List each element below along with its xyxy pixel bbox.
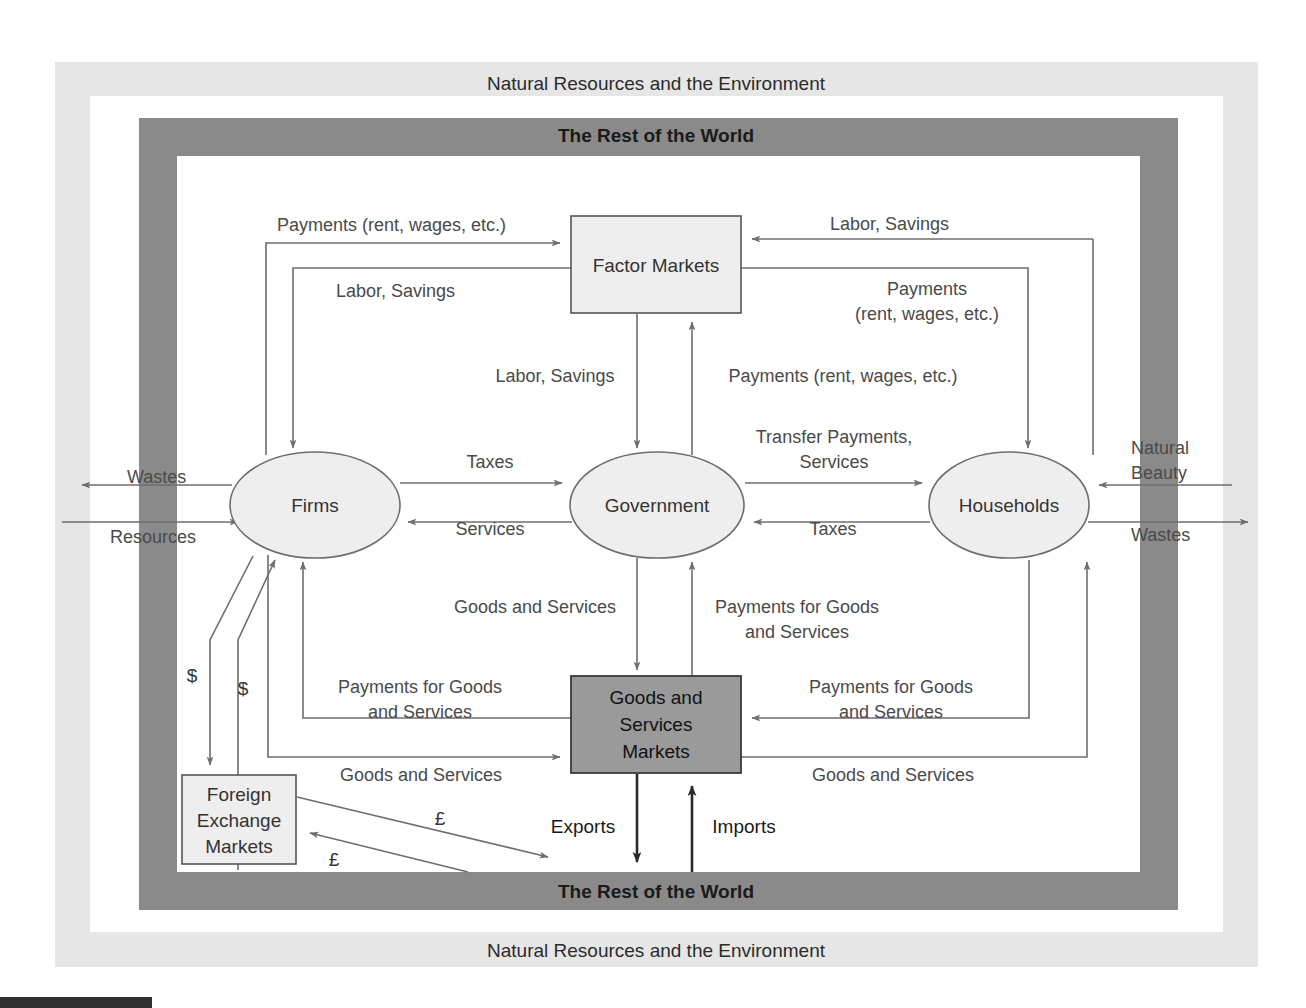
- flow-label-services-gov-firms: Services: [455, 519, 524, 539]
- flow-label-payments-goods-center-line2: and Services: [745, 622, 849, 642]
- flow-line-payments-firms-to-factor: [266, 243, 560, 455]
- flow-label-payments-top-left: Payments (rent, wages, etc.): [277, 215, 506, 235]
- flow-label-goods-services-right: Goods and Services: [812, 765, 974, 785]
- node-label-factor-markets: Factor Markets: [593, 255, 720, 276]
- flow-line-goods-gsmarkets-to-households: [741, 562, 1087, 757]
- node-goods-services-markets[interactable]: Goods and Services Markets: [571, 676, 741, 773]
- flow-label-natural-beauty-line1: Natural: [1131, 438, 1189, 458]
- node-factor-markets[interactable]: Factor Markets: [571, 216, 741, 313]
- band-label-inner-bottom: The Rest of the World: [558, 881, 754, 902]
- flow-label-transfer-line1: Transfer Payments,: [756, 427, 912, 447]
- node-label-gsmarkets-line3: Markets: [622, 741, 690, 762]
- node-label-fem-line2: Exchange: [197, 810, 282, 831]
- flow-label-payments-goods-center-line1: Payments for Goods: [715, 597, 879, 617]
- node-firms[interactable]: Firms: [230, 452, 400, 558]
- flow-label-labor-savings-left: Labor, Savings: [336, 281, 455, 301]
- flow-label-taxes-firms-gov: Taxes: [466, 452, 513, 472]
- flow-label-transfer-line2: Services: [799, 452, 868, 472]
- flow-label-resources-left: Resources: [110, 527, 196, 547]
- figure-canvas: Natural Resources and the Environment Th…: [0, 0, 1306, 1008]
- flow-label-goods-services-center: Goods and Services: [454, 597, 616, 617]
- node-label-government: Government: [605, 495, 710, 516]
- flow-label-dollar-in: $: [238, 678, 249, 699]
- flow-label-payments-goods-right-line2: and Services: [839, 702, 943, 722]
- flow-label-dollar-out: $: [187, 665, 198, 686]
- flow-label-payments-right-line2: (rent, wages, etc.): [855, 304, 999, 324]
- node-label-gsmarkets-line1: Goods and: [610, 687, 703, 708]
- band-label-inner-top: The Rest of the World: [558, 125, 754, 146]
- flow-label-imports: Imports: [712, 816, 775, 837]
- flow-line-dollar-firms-to-fem: [210, 556, 253, 765]
- flow-label-labor-savings-right: Labor, Savings: [830, 214, 949, 234]
- node-households[interactable]: Households: [929, 452, 1089, 558]
- flow-label-payments-center: Payments (rent, wages, etc.): [728, 366, 957, 386]
- flow-label-payments-goods-right-line1: Payments for Goods: [809, 677, 973, 697]
- flow-label-exports: Exports: [551, 816, 615, 837]
- flow-label-labor-savings-center: Labor, Savings: [495, 366, 614, 386]
- flow-line-pound-fem-to-row: [297, 797, 548, 857]
- flow-label-payments-goods-left-line1: Payments for Goods: [338, 677, 502, 697]
- flow-label-wastes-right: Wastes: [1131, 525, 1190, 545]
- band-label-outer-bottom: Natural Resources and the Environment: [487, 940, 826, 961]
- flow-label-goods-services-left: Goods and Services: [340, 765, 502, 785]
- flow-label-wastes-left: Wastes: [127, 467, 186, 487]
- node-label-fem-line3: Markets: [205, 836, 273, 857]
- node-government[interactable]: Government: [570, 452, 744, 558]
- flow-label-natural-beauty-line2: Beauty: [1131, 463, 1187, 483]
- node-label-fem-line1: Foreign: [207, 784, 271, 805]
- circular-flow-diagram: Natural Resources and the Environment Th…: [0, 0, 1306, 1008]
- flow-line-payments-factor-to-households: [741, 268, 1028, 448]
- flow-line-goods-firms-to-gsmarkets: [268, 555, 560, 757]
- node-label-households: Households: [959, 495, 1059, 516]
- node-label-firms: Firms: [291, 495, 338, 516]
- flow-label-payments-goods-left-line2: and Services: [368, 702, 472, 722]
- flow-label-payments-right-line1: Payments: [887, 279, 967, 299]
- flow-label-pound-out: £: [435, 808, 446, 829]
- node-label-gsmarkets-line2: Services: [620, 714, 693, 735]
- flow-label-taxes-hh-gov: Taxes: [809, 519, 856, 539]
- band-label-outer-top: Natural Resources and the Environment: [487, 73, 826, 94]
- node-foreign-exchange-markets[interactable]: Foreign Exchange Markets: [182, 775, 296, 864]
- flow-label-pound-in: £: [329, 849, 340, 870]
- page-bottom-rule: [0, 997, 152, 1008]
